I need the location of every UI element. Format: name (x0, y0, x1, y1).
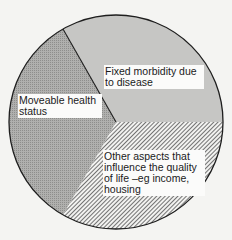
label-line: to disease (105, 77, 159, 88)
label-other-aspects: Other aspects that influence the quality… (103, 150, 205, 196)
label-moveable-health: Moveable health status (18, 94, 102, 118)
pie-chart (0, 0, 232, 240)
label-line: housing (104, 184, 204, 195)
label-fixed-morbidity: Fixed morbidity due to disease (104, 65, 204, 89)
label-line: status (19, 106, 101, 117)
